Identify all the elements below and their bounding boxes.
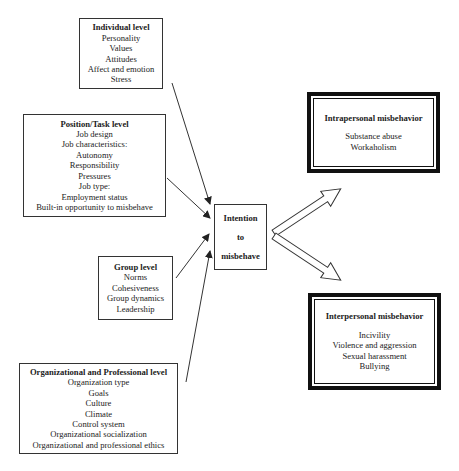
group-item: Group dynamics	[99, 293, 172, 303]
intrapersonal-item: Workaholism	[311, 142, 436, 152]
intention-line: Intention	[215, 209, 266, 228]
intention-to-misbehave-box: Intention to misbehave	[214, 204, 267, 270]
individual-item: Attitudes	[80, 54, 162, 64]
position-item: Job design	[24, 129, 165, 139]
group-level-title: Group level	[99, 262, 172, 272]
group-level-box: Group level Norms Cohesiveness Group dyn…	[98, 256, 173, 320]
interpersonal-item: Bullying	[312, 361, 437, 371]
individual-item: Affect and emotion	[80, 64, 162, 74]
intrapersonal-item: Substance abuse	[311, 131, 436, 141]
individual-item: Values	[80, 43, 162, 53]
group-item: Cohesiveness	[99, 283, 172, 293]
interpersonal-title: Interpersonal misbehavior	[312, 311, 437, 321]
individual-arrow	[172, 83, 210, 204]
position-item: Job characteristics:	[24, 139, 165, 149]
organizational-item: Organization type	[20, 377, 177, 387]
position-item: Autonomy	[24, 150, 165, 160]
organizational-item: Organizational and professional ethics	[20, 440, 177, 450]
intention-line: misbehave	[215, 247, 266, 266]
organizational-arrow	[186, 251, 210, 382]
organizational-level-title: Organizational and Professional level	[20, 367, 177, 377]
organizational-item: Organizational socialization	[20, 429, 177, 439]
individual-item: Personality	[80, 33, 162, 43]
position-item: Job type:	[24, 181, 165, 191]
individual-level-title: Individual level	[80, 22, 162, 32]
position-item: Pressures	[24, 171, 165, 181]
interpersonal-item: Violence and aggression	[312, 340, 437, 350]
group-item: Norms	[99, 272, 172, 282]
position-item: Built-in opportunity to misbehave	[24, 202, 165, 212]
interpersonal-item: Incivility	[312, 330, 437, 340]
organizational-level-box: Organizational and Professional level Or…	[19, 363, 178, 454]
down-block-arrow	[269, 228, 346, 287]
interpersonal-misbehavior-box: Interpersonal misbehavior Incivility Vio…	[308, 293, 441, 390]
interpersonal-item: Sexual harassment	[312, 351, 437, 361]
group-item: Leadership	[99, 304, 172, 314]
individual-item: Stress	[80, 74, 162, 84]
intention-line: to	[215, 228, 266, 247]
organizational-item: Climate	[20, 409, 177, 419]
up-block-arrow	[269, 181, 346, 240]
position-level-box: Position/Task level Job design Job chara…	[23, 114, 166, 217]
intrapersonal-misbehavior-box: Intrapersonal misbehavior Substance abus…	[307, 92, 440, 173]
intrapersonal-title: Intrapersonal misbehavior	[311, 113, 436, 123]
individual-level-box: Individual level Personality Values Atti…	[79, 18, 163, 89]
organizational-item: Culture	[20, 398, 177, 408]
organizational-item: Control system	[20, 419, 177, 429]
organizational-item: Goals	[20, 388, 177, 398]
position-item: Employment status	[24, 192, 165, 202]
position-item: Responsibility	[24, 160, 165, 170]
position-level-title: Position/Task level	[24, 119, 165, 129]
group-arrow	[176, 234, 209, 278]
